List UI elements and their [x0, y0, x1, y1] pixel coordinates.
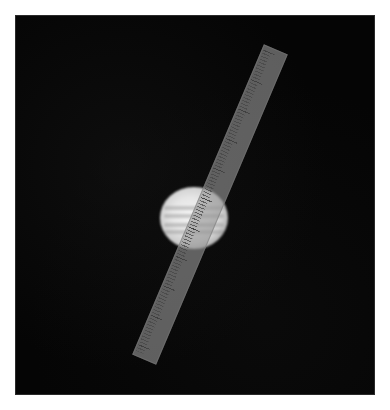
photo-frame	[16, 16, 374, 394]
